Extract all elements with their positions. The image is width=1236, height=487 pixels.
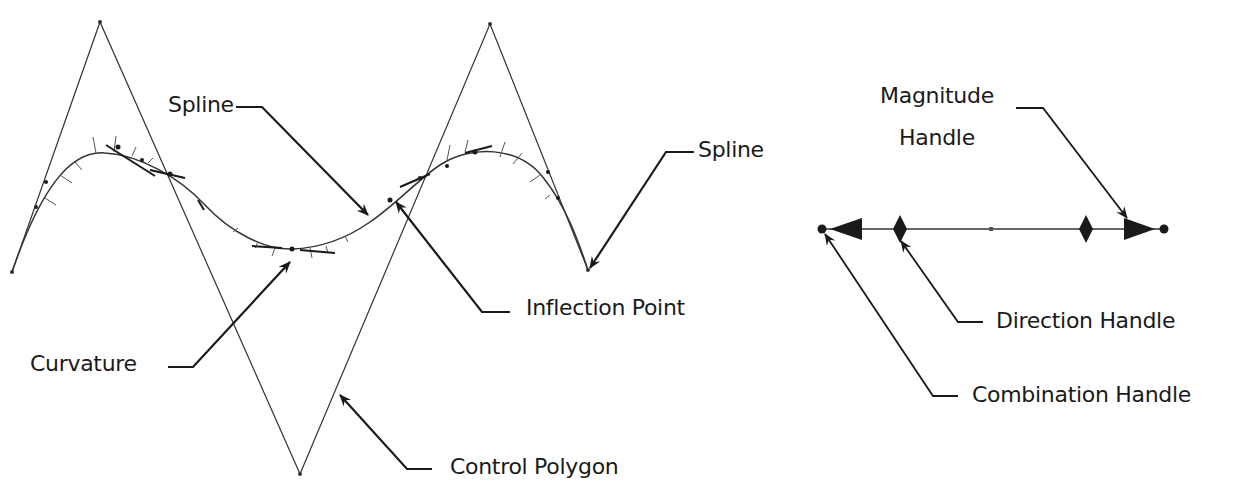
midpoint-marker bbox=[989, 227, 993, 231]
combination-handle-right bbox=[1160, 225, 1169, 234]
diagram-canvas bbox=[0, 0, 1236, 487]
leader-control-polygon bbox=[340, 395, 432, 469]
magnitude-arrow-right bbox=[1124, 218, 1155, 240]
leader-inflection-point bbox=[396, 202, 510, 312]
leader-spline-top bbox=[236, 107, 368, 215]
spline-curve bbox=[12, 151, 588, 272]
label-curvature: Curvature bbox=[30, 353, 137, 375]
label-spline-top: Spline bbox=[168, 94, 234, 116]
spline-diagram: Spline Spline Inflection Point Curvature… bbox=[0, 0, 1236, 487]
leader-magnitude-handle bbox=[1016, 108, 1127, 218]
label-inflection-point: Inflection Point bbox=[526, 297, 685, 319]
direction-diamond-left bbox=[893, 215, 907, 243]
spline-handles bbox=[106, 145, 492, 253]
direction-diamond-right bbox=[1079, 215, 1093, 243]
label-control-polygon: Control Polygon bbox=[450, 456, 618, 478]
spline-knots bbox=[34, 145, 560, 252]
combination-handle-left bbox=[818, 225, 827, 234]
spline-handle-figure bbox=[818, 215, 1169, 243]
label-direction-handle: Direction Handle bbox=[996, 310, 1175, 332]
label-magnitude-handle-line1: Magnitude bbox=[868, 85, 1006, 107]
label-spline-right: Spline bbox=[698, 139, 764, 161]
label-combination-handle: Combination Handle bbox=[972, 384, 1191, 406]
label-magnitude-handle-line2: Handle bbox=[868, 127, 1006, 149]
leader-spline-right bbox=[590, 152, 694, 268]
leader-direction-handle bbox=[901, 241, 983, 322]
magnitude-arrow-left bbox=[830, 218, 862, 240]
leader-combination-handle bbox=[825, 234, 958, 396]
